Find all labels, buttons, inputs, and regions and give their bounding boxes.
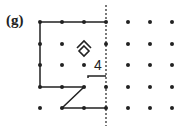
dot-grid-diagram: 4 — [0, 0, 191, 129]
diamond-chevron-icon — [77, 41, 91, 56]
digit-four: 4 — [94, 57, 102, 73]
